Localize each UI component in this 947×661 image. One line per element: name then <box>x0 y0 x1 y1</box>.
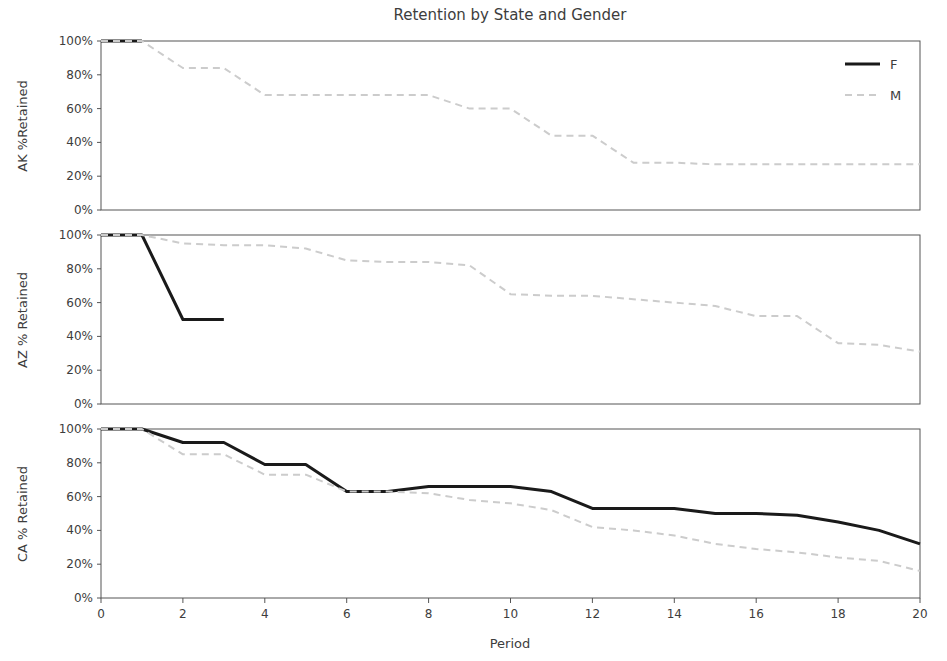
xtick-label: 4 <box>261 607 269 621</box>
panel-CA: CA % Retained 0%20%40%60%80%100% 0246810… <box>15 422 928 651</box>
ytick-label: 100% <box>59 228 93 242</box>
xtick-label: 12 <box>585 607 600 621</box>
x-axis-ticks: 02468101214161820 <box>97 598 927 621</box>
ytick-label: 40% <box>66 523 93 537</box>
panel-AK-yticks: 0%20%40%60%80%100% <box>59 34 101 217</box>
panel-AK-series-M <box>101 41 920 164</box>
panel-AZ-yticks: 0%20%40%60%80%100% <box>59 228 101 411</box>
legend-box <box>835 50 915 108</box>
xtick-label: 6 <box>343 607 351 621</box>
ytick-label: 100% <box>59 34 93 48</box>
legend-label-F: F <box>890 57 897 72</box>
xtick-label: 16 <box>749 607 764 621</box>
ytick-label: 80% <box>66 68 93 82</box>
xtick-label: 14 <box>667 607 682 621</box>
ytick-label: 0% <box>74 203 93 217</box>
ytick-label: 80% <box>66 262 93 276</box>
retention-chart-figure: Retention by State and Gender AK %Retain… <box>0 0 947 661</box>
ytick-label: 40% <box>66 329 93 343</box>
xtick-label: 10 <box>503 607 518 621</box>
xtick-label: 2 <box>179 607 187 621</box>
panel-AK: AK %Retained 0%20%40%60%80%100% F M <box>15 34 920 217</box>
panel-AZ-series-M <box>101 235 920 352</box>
panel-AZ-series-F <box>101 235 224 320</box>
ytick-label: 60% <box>66 490 93 504</box>
panel-AZ-ylabel: AZ % Retained <box>15 272 30 368</box>
panel-CA-frame <box>101 429 920 598</box>
ytick-label: 40% <box>66 135 93 149</box>
xtick-label: 0 <box>97 607 105 621</box>
xtick-label: 18 <box>830 607 845 621</box>
panel-AZ: AZ % Retained 0%20%40%60%80%100% <box>15 228 920 411</box>
ytick-label: 0% <box>74 591 93 605</box>
ytick-label: 20% <box>66 169 93 183</box>
ytick-label: 80% <box>66 456 93 470</box>
xtick-label: 20 <box>912 607 927 621</box>
ytick-label: 60% <box>66 296 93 310</box>
ytick-label: 20% <box>66 363 93 377</box>
xtick-label: 8 <box>425 607 433 621</box>
panel-CA-series-M <box>101 429 920 571</box>
panel-AK-ylabel: AK %Retained <box>15 80 30 172</box>
legend: F M <box>835 50 915 108</box>
legend-label-M: M <box>890 88 901 103</box>
panel-CA-series-F <box>101 429 920 544</box>
x-axis-label: Period <box>490 636 531 651</box>
panel-CA-yticks: 0%20%40%60%80%100% <box>59 422 101 605</box>
panel-CA-ylabel: CA % Retained <box>15 466 30 562</box>
chart-title: Retention by State and Gender <box>394 6 628 24</box>
panel-AK-frame <box>101 41 920 210</box>
ytick-label: 20% <box>66 557 93 571</box>
ytick-label: 0% <box>74 397 93 411</box>
ytick-label: 60% <box>66 102 93 116</box>
ytick-label: 100% <box>59 422 93 436</box>
